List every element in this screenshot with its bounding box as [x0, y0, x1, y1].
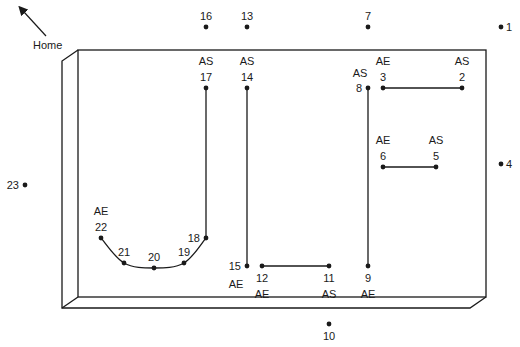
point-dot-icon — [204, 25, 209, 30]
point-15: 15AE — [229, 260, 250, 290]
point-dot-icon — [204, 236, 209, 241]
point-tag: AE — [229, 278, 244, 290]
point-tag: AE — [376, 55, 391, 67]
point-label: 18 — [188, 232, 200, 244]
point-8: 8AS — [353, 67, 371, 94]
point-label: 9 — [365, 272, 371, 284]
point-23: 23 — [7, 179, 28, 191]
point-dot-icon — [152, 266, 157, 271]
point-label: 11 — [323, 272, 334, 284]
point-dot-icon — [366, 86, 371, 91]
point-dot-icon — [99, 236, 104, 241]
point-dot-icon — [327, 322, 332, 327]
diagram-canvas: Home 12AS3AE45AS6AE78AS9AE1011AS12AE1314… — [0, 0, 520, 347]
point-tag: AS — [353, 67, 368, 79]
point-dot-icon — [260, 264, 265, 269]
point-tag: AS — [429, 134, 444, 146]
point-11: 11AS — [322, 264, 337, 300]
point-5: 5AS — [429, 134, 444, 169]
point-dot-icon — [245, 264, 250, 269]
point-17: 17AS — [199, 55, 214, 90]
point-tag: AE — [255, 288, 270, 300]
toolpath-diagram: Home 12AS3AE45AS6AE78AS9AE1011AS12AE1314… — [0, 0, 520, 347]
point-label: 3 — [380, 71, 386, 83]
point-3: 3AE — [376, 55, 391, 90]
point-label: 17 — [200, 71, 212, 83]
home-label: Home — [33, 39, 62, 51]
point-4: 4 — [499, 158, 513, 170]
point-tag: AS — [455, 55, 470, 67]
point-dot-icon — [381, 165, 386, 170]
point-label: 23 — [7, 179, 19, 191]
point-10: 10 — [323, 322, 335, 342]
point-tag: AS — [240, 55, 255, 67]
point-label: 19 — [178, 246, 190, 258]
point-dot-icon — [366, 264, 371, 269]
point-tag: AE — [361, 288, 376, 300]
point-label: 10 — [323, 330, 335, 342]
path-points: 12AS3AE45AS6AE78AS9AE1011AS12AE1314AS15A… — [7, 10, 512, 342]
point-label: 15 — [229, 260, 241, 272]
point-dot-icon — [366, 25, 371, 30]
point-dot-icon — [327, 264, 332, 269]
point-16: 16 — [200, 10, 212, 29]
home-arrow-icon — [24, 12, 46, 36]
point-dot-icon — [381, 86, 386, 91]
point-dot-icon — [434, 165, 439, 170]
point-6: 6AE — [376, 134, 391, 169]
point-label: 20 — [148, 251, 160, 263]
point-7: 7 — [365, 10, 371, 29]
point-9: 9AE — [361, 264, 376, 300]
point-12: 12AE — [255, 264, 270, 300]
point-label: 7 — [365, 10, 371, 22]
point-21: 21 — [118, 246, 130, 265]
point-label: 14 — [241, 71, 253, 83]
point-dot-icon — [182, 261, 187, 266]
point-label: 21 — [118, 246, 130, 258]
point-22: 22AE — [94, 205, 109, 240]
point-dot-icon — [122, 261, 127, 266]
point-dot-icon — [23, 183, 28, 188]
workpiece-outline — [62, 50, 486, 308]
point-2: 2AS — [455, 55, 470, 90]
home-indicator: Home — [24, 12, 62, 51]
point-1: 1 — [499, 21, 513, 33]
point-dot-icon — [245, 25, 250, 30]
point-tag: AE — [94, 205, 109, 217]
point-dot-icon — [204, 86, 209, 91]
point-tag: AS — [199, 55, 214, 67]
point-tag: AE — [376, 134, 391, 146]
point-13: 13 — [241, 10, 253, 29]
point-label: 5 — [433, 150, 439, 162]
point-label: 8 — [356, 82, 362, 94]
workpiece-corner-edge — [62, 297, 78, 308]
point-tag: AS — [322, 288, 337, 300]
point-dot-icon — [499, 25, 504, 30]
workpiece-front-face — [78, 50, 486, 297]
point-label: 12 — [256, 272, 268, 284]
point-18: 18 — [188, 232, 209, 244]
workpiece-bevel-edge — [62, 50, 486, 308]
point-label: 4 — [506, 158, 512, 170]
point-dot-icon — [460, 86, 465, 91]
point-label: 22 — [95, 221, 107, 233]
point-label: 16 — [200, 10, 212, 22]
point-label: 13 — [241, 10, 253, 22]
point-19: 19 — [178, 246, 190, 265]
point-14: 14AS — [240, 55, 255, 90]
point-label: 6 — [380, 150, 386, 162]
tool-paths — [101, 88, 462, 268]
point-dot-icon — [245, 86, 250, 91]
point-label: 1 — [506, 21, 512, 33]
point-label: 2 — [459, 71, 465, 83]
point-dot-icon — [499, 162, 504, 167]
